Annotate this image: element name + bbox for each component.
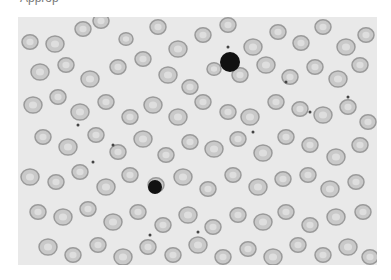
cell-center-pallor xyxy=(279,176,286,182)
cell-center-pallor xyxy=(59,213,67,220)
cell-center-pallor xyxy=(51,40,59,47)
cell-center-pallor xyxy=(169,252,176,258)
cell-center-pallor xyxy=(234,212,241,218)
cell-center-pallor xyxy=(359,209,366,215)
cell-center-pallor xyxy=(296,106,303,112)
cell-center-pallor xyxy=(36,68,44,75)
cell-center-pallor xyxy=(126,114,133,120)
cell-center-pallor xyxy=(219,254,226,260)
platelet xyxy=(112,144,115,147)
cell-center-pallor xyxy=(332,213,340,220)
cell-center-pallor xyxy=(162,152,169,158)
cell-center-pallor xyxy=(342,43,350,50)
cell-center-pallor xyxy=(262,61,270,68)
cell-center-pallor xyxy=(134,209,141,215)
cell-center-pallor xyxy=(174,113,182,120)
cell-center-pallor xyxy=(259,218,267,225)
micrograph-canvas xyxy=(18,17,377,265)
cell-center-pallor xyxy=(94,242,101,248)
cell-center-pallor xyxy=(334,75,342,82)
cell-center-pallor xyxy=(139,135,147,142)
cell-center-pallor xyxy=(149,101,157,108)
cell-center-pallor xyxy=(154,24,161,30)
cell-center-pallor xyxy=(362,32,369,38)
cell-center-pallor xyxy=(364,119,371,125)
cell-center-pallor xyxy=(34,209,41,215)
cell-center-pallor xyxy=(139,56,146,62)
cell-center-pallor xyxy=(249,43,257,50)
platelet xyxy=(285,81,288,84)
cell-center-pallor xyxy=(69,252,76,258)
cell-center-pallor xyxy=(62,62,69,68)
cell-center-pallor xyxy=(194,241,202,248)
cell-center-pallor xyxy=(356,62,363,68)
platelet xyxy=(77,124,80,127)
cell-center-pallor xyxy=(76,169,83,175)
cell-center-pallor xyxy=(209,224,216,230)
cell-center-pallor xyxy=(244,246,251,252)
cell-center-pallor xyxy=(286,74,293,80)
cell-center-pallor xyxy=(76,108,84,115)
cell-center-pallor xyxy=(311,64,318,70)
cell-center-pallor xyxy=(319,24,326,30)
cell-center-pallor xyxy=(84,206,91,212)
cell-center-pallor xyxy=(254,183,262,190)
cell-center-pallor xyxy=(224,22,231,28)
cell-center-pallor xyxy=(274,29,281,35)
cell-center-pallor xyxy=(44,243,52,250)
cell-center-pallor xyxy=(29,101,37,108)
cell-center-pallor xyxy=(344,104,351,110)
cell-center-pallor xyxy=(64,143,72,150)
cell-center-pallor xyxy=(304,172,311,178)
cell-center-pallor xyxy=(259,149,267,156)
dark-stained-cell xyxy=(148,180,162,194)
platelet xyxy=(347,96,350,99)
cell-center-pallor xyxy=(179,173,187,180)
platelet xyxy=(197,231,200,234)
cell-center-pallor xyxy=(109,218,117,225)
cell-center-pallor xyxy=(306,142,313,148)
cell-center-pallor xyxy=(97,18,104,24)
dark-stained-cell xyxy=(220,52,240,72)
cell-center-pallor xyxy=(272,99,279,105)
cell-center-pallor xyxy=(174,45,182,52)
cell-center-pallor xyxy=(344,243,352,250)
cut-off-caption: Approp xyxy=(20,0,59,5)
cell-center-pallor xyxy=(210,145,218,152)
cell-center-pallor xyxy=(332,153,340,160)
cell-center-pallor xyxy=(126,172,133,178)
cell-center-pallor xyxy=(246,113,254,120)
cell-center-pallor xyxy=(114,149,121,155)
cell-center-pallor xyxy=(199,32,206,38)
cell-center-pallor xyxy=(282,134,289,140)
cell-center-pallor xyxy=(54,94,61,100)
platelet xyxy=(149,234,152,237)
cell-center-pallor xyxy=(319,252,326,258)
cell-center-pallor xyxy=(297,40,304,46)
cell-center-pallor xyxy=(26,39,33,45)
cell-center-pallor xyxy=(144,244,151,250)
cell-center-pallor xyxy=(86,75,94,82)
cell-center-pallor xyxy=(199,99,206,105)
cell-center-pallor xyxy=(79,26,86,32)
cell-center-pallor xyxy=(186,139,193,145)
cell-center-pallor xyxy=(294,242,301,248)
cell-center-pallor xyxy=(356,142,363,148)
cell-center-pallor xyxy=(114,64,121,70)
cell-center-pallor xyxy=(282,209,289,215)
cell-center-pallor xyxy=(92,132,99,138)
cell-center-pallor xyxy=(319,111,327,118)
cell-center-pallor xyxy=(52,179,59,185)
platelet xyxy=(252,131,255,134)
cell-center-pallor xyxy=(186,84,193,90)
cell-center-pallor xyxy=(123,36,129,42)
cell-center-pallor xyxy=(229,172,236,178)
platelet xyxy=(227,46,230,49)
cell-center-pallor xyxy=(184,211,192,218)
cell-center-pallor xyxy=(366,254,373,260)
cell-center-pallor xyxy=(269,253,277,260)
cell-center-pallor xyxy=(39,134,46,140)
cell-center-pallor xyxy=(102,99,109,105)
cell-center-pallor xyxy=(204,186,211,192)
platelet xyxy=(309,111,312,114)
